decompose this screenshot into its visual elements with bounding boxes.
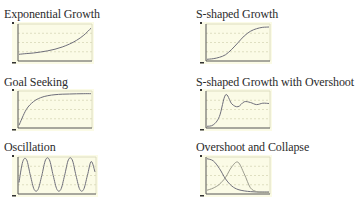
plot-area [200,155,272,197]
y-max-tick [200,22,202,24]
chart-exponential-growth: Exponential Growth [4,7,124,63]
panel-background [12,22,94,64]
chart-overshoot-and-collapse: Overshoot and Collapse [196,140,356,198]
panel-background [200,155,272,197]
y-max-tick [200,155,202,157]
plot-area [12,89,94,131]
y-max-tick [12,22,14,24]
chart-title: Exponential Growth [4,7,100,22]
chart-title: Oscillation [4,140,56,155]
y-min-tick [12,129,16,131]
y-min-tick [200,62,204,64]
y-max-tick [12,155,14,157]
chart-title: S-shaped Growth with Overshoot [196,75,354,90]
chart-s-shaped-growth-with-overshoot: S-shaped Growth with Overshoot [196,75,362,131]
y-min-tick [12,195,16,197]
chart-title: Goal Seeking [4,75,68,90]
plot-area [200,22,272,64]
chart-title: Overshoot and Collapse [196,140,309,155]
chart-s-shaped-growth: S-shaped Growth [196,7,356,63]
y-min-tick [200,195,204,197]
plot-area [12,22,94,64]
plot-area [200,89,272,131]
plot-area [12,155,98,197]
y-max-tick [12,89,14,91]
chart-title: S-shaped Growth [196,7,278,22]
chart-goal-seeking: Goal Seeking [4,75,124,131]
panel-background [200,89,272,131]
y-min-tick [200,129,204,131]
chart-oscillation: Oscillation [4,140,124,198]
panel-background [200,22,272,64]
panel-background [12,155,98,197]
y-max-tick [200,89,202,91]
y-min-tick [12,62,16,64]
